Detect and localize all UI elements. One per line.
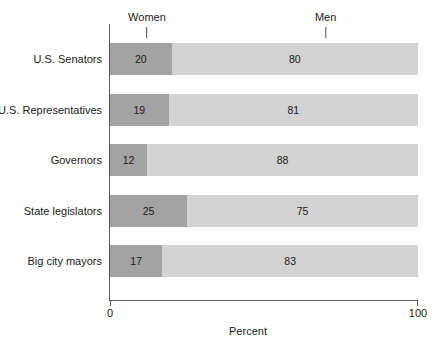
bar-row: Big city mayors1783 <box>110 245 418 277</box>
bar-segment-women: 17 <box>110 245 162 277</box>
bar-segment-women: 20 <box>110 43 172 75</box>
x-axis-tick-label: 100 <box>409 307 427 319</box>
annotation-men: Men <box>315 11 336 38</box>
annotation-women-tick <box>146 27 147 38</box>
category-label: U.S. Senators <box>34 43 110 75</box>
category-label: State legislators <box>24 195 110 227</box>
bar-value-label: 17 <box>130 255 142 267</box>
annotation-women: Women <box>128 11 166 38</box>
stacked-bar: 2080 <box>110 43 418 75</box>
bar-segment-men: 83 <box>162 245 418 277</box>
category-label: U.S. Representatives <box>0 94 110 126</box>
stacked-bar: 1981 <box>110 94 418 126</box>
x-axis-title: Percent <box>0 325 446 337</box>
stacked-bar: 2575 <box>110 195 418 227</box>
bar-chart: Women Men U.S. Senators2080U.S. Represen… <box>0 0 446 343</box>
bar-value-label: 20 <box>135 53 147 65</box>
bar-value-label: 12 <box>123 154 135 166</box>
category-label: Governors <box>51 144 110 176</box>
bar-value-label: 75 <box>297 205 309 217</box>
bar-value-label: 25 <box>143 205 155 217</box>
stacked-bar: 1783 <box>110 245 418 277</box>
bar-segment-men: 88 <box>147 144 418 176</box>
bar-row: Governors1288 <box>110 144 418 176</box>
x-axis-tick <box>417 300 418 306</box>
bar-value-label: 19 <box>133 104 145 116</box>
bar-segment-women: 12 <box>110 144 147 176</box>
bar-segment-men: 75 <box>187 195 418 227</box>
bar-segment-men: 81 <box>169 94 418 126</box>
bar-row: U.S. Senators2080 <box>110 43 418 75</box>
bar-value-label: 80 <box>289 53 301 65</box>
bar-segment-women: 25 <box>110 195 187 227</box>
x-axis-line <box>109 300 418 301</box>
x-axis-tick-label: 0 <box>107 307 113 319</box>
bar-value-label: 83 <box>284 255 296 267</box>
bar-row: U.S. Representatives1981 <box>110 94 418 126</box>
bar-row: State legislators2575 <box>110 195 418 227</box>
bar-value-label: 88 <box>277 154 289 166</box>
bar-segment-men: 80 <box>172 43 418 75</box>
bar-value-label: 81 <box>287 104 299 116</box>
category-label: Big city mayors <box>27 245 110 277</box>
stacked-bar: 1288 <box>110 144 418 176</box>
annotation-women-label: Women <box>128 11 166 24</box>
x-axis-title-text: Percent <box>229 325 267 337</box>
annotation-men-tick <box>325 27 326 38</box>
plot-area: U.S. Senators2080U.S. Representatives198… <box>110 43 418 296</box>
bar-segment-women: 19 <box>110 94 169 126</box>
x-axis-tick <box>110 300 111 306</box>
annotation-men-label: Men <box>315 11 336 24</box>
